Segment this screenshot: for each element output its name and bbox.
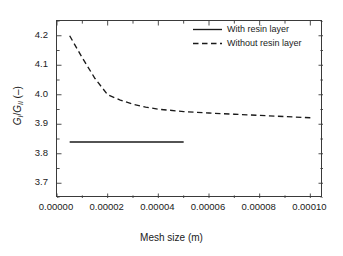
y-tick-label: 4.1	[14, 60, 48, 70]
y-tick-label: 4.2	[14, 30, 48, 40]
y-axis-label-slash: /	[12, 113, 23, 116]
legend-item: Without resin layer	[193, 37, 317, 49]
chart-figure: GI/GII (–) Mesh size (m) 3.73.83.94.04.1…	[0, 0, 343, 256]
y-axis-label-sub2: II	[17, 101, 24, 105]
y-tick-label: 3.8	[14, 148, 48, 158]
y-tick-label: 3.9	[14, 119, 48, 129]
chart-legend: With resin layerWithout resin layer	[193, 23, 317, 51]
legend-line-sample	[193, 39, 222, 48]
y-tick-label: 4.0	[14, 89, 48, 99]
y-axis-label-sub1: I	[17, 116, 24, 118]
x-axis-label: Mesh size (m)	[0, 232, 343, 243]
legend-item: With resin layer	[193, 23, 317, 35]
legend-line-sample	[193, 25, 222, 34]
y-axis-label-g2: G	[12, 105, 23, 113]
y-axis-label: GI/GII (–)	[12, 26, 24, 186]
x-tick-label: 0.00010	[279, 202, 339, 212]
legend-label: With resin layer	[227, 23, 289, 35]
legend-label: Without resin layer	[227, 37, 302, 49]
y-tick-label: 3.7	[14, 178, 48, 188]
